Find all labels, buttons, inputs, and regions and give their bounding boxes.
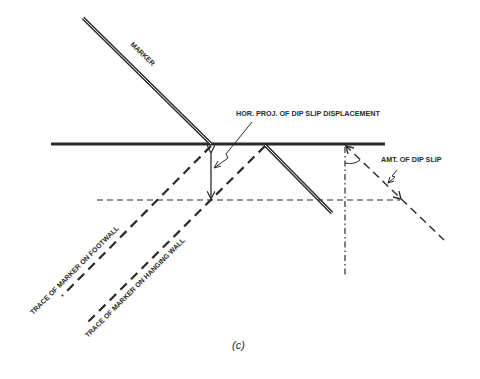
trace-footwall-label: TRACE OF MARKER ON FOOTWALL	[29, 224, 121, 316]
fault-diagram: MARKER HOR. PROJ. OF DIP SLIP DISPLACEME…	[0, 0, 480, 379]
amt-dip-slip-label: AMT. OF DIP SLIP	[381, 155, 442, 164]
figure-caption: (c)	[232, 339, 245, 351]
marker-label: MARKER	[129, 41, 156, 67]
marker-footwall-bed	[83, 18, 211, 144]
hor-proj-label: HOR. PROJ. OF DIP SLIP DISPLACEMENT	[236, 109, 381, 118]
leader-arrowhead	[214, 161, 221, 168]
trace-hanging-wall-label: TRACE OF MARKER ON HANGING WALL	[84, 236, 187, 339]
marker-hanging-wall-bed	[265, 145, 332, 213]
dip-angle-arc	[345, 160, 360, 164]
